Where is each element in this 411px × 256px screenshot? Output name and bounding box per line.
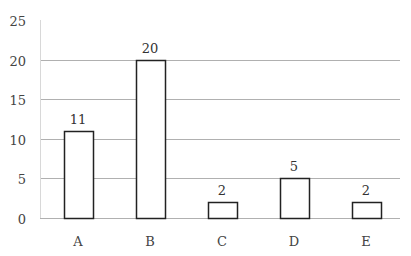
- data-label: 11: [70, 112, 87, 127]
- data-label: 5: [290, 159, 298, 174]
- x-category-label: B: [145, 234, 155, 249]
- bar-e: [353, 203, 382, 219]
- bar-a: [65, 132, 94, 219]
- x-category-label: A: [72, 234, 83, 249]
- x-category-label: C: [217, 234, 227, 249]
- y-tick-label: 10: [9, 133, 26, 148]
- x-category-label: E: [361, 234, 371, 249]
- x-category-label: D: [289, 234, 299, 249]
- data-label: 2: [218, 183, 226, 198]
- y-tick-label: 15: [9, 93, 26, 108]
- y-tick-label: 20: [9, 54, 26, 69]
- data-label: 2: [362, 183, 370, 198]
- y-tick-label: 25: [9, 14, 26, 29]
- bar-chart: 0510152025 1120252 ABCDE: [0, 0, 411, 256]
- bar-d: [281, 179, 310, 219]
- x-axis-categories: ABCDE: [72, 234, 370, 249]
- bar-b: [137, 61, 166, 219]
- y-tick-label: 5: [18, 172, 26, 187]
- bars: 1120252: [65, 41, 382, 219]
- data-label: 20: [142, 41, 159, 56]
- bar-c: [209, 203, 238, 219]
- y-tick-label: 0: [18, 212, 26, 227]
- y-axis-ticks: 0510152025: [9, 14, 26, 227]
